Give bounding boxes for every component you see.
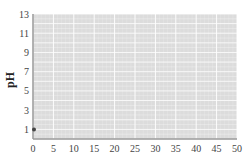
y-tick-label: 11 — [19, 28, 29, 39]
y-axis-label: pH — [3, 71, 17, 88]
y-tick-label: 1 — [24, 124, 29, 135]
y-tick-label: 7 — [24, 66, 29, 77]
x-tick-label: 25 — [130, 143, 140, 154]
plot-area — [33, 14, 237, 139]
x-tick-label: 30 — [150, 143, 160, 154]
x-tick-label: 20 — [110, 143, 120, 154]
chart: 135791113 05101520253035404550 pH — [0, 0, 251, 160]
x-axis-ticks: 05101520253035404550 — [31, 143, 243, 154]
y-tick-label: 9 — [24, 47, 29, 58]
data-points — [32, 127, 36, 131]
x-tick-label: 45 — [212, 143, 222, 154]
y-tick-label: 13 — [19, 9, 29, 20]
y-axis-ticks: 135791113 — [19, 9, 29, 135]
x-tick-label: 40 — [191, 143, 201, 154]
x-tick-label: 0 — [31, 143, 36, 154]
y-tick-label: 5 — [24, 85, 29, 96]
x-tick-label: 35 — [171, 143, 181, 154]
x-tick-label: 50 — [232, 143, 242, 154]
x-tick-label: 5 — [51, 143, 56, 154]
data-point — [32, 127, 36, 131]
x-tick-label: 15 — [89, 143, 99, 154]
x-tick-label: 10 — [69, 143, 79, 154]
y-tick-label: 3 — [24, 105, 29, 116]
